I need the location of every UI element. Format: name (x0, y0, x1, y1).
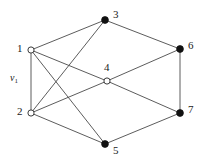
graph-edge-1-3 (31, 20, 105, 50)
vertex-label-5: 5 (113, 145, 119, 156)
graph-node-1 (28, 47, 34, 53)
graph-node-6 (177, 46, 184, 53)
graph-edge-2-4 (31, 81, 107, 113)
graph-canvas (0, 0, 206, 163)
nodes-group (28, 17, 184, 148)
graph-node-4 (104, 78, 110, 84)
vertex-label-2: 2 (17, 106, 23, 117)
graph-node-5 (102, 141, 109, 148)
graph-edge-4-7 (107, 81, 180, 113)
vertex-label-3: 3 (113, 9, 119, 20)
vertex-label-1: 1 (17, 43, 23, 54)
graph-edge-4-6 (107, 49, 180, 81)
graph-edge-5-7 (105, 113, 180, 144)
graph-edge-2-5 (31, 113, 105, 144)
graph-figure: 1234567v1 (0, 0, 206, 163)
graph-node-7 (177, 110, 184, 117)
graph-edge-3-6 (105, 20, 180, 49)
edge-label-v1: v1 (10, 73, 18, 83)
graph-node-2 (28, 110, 34, 116)
vertex-label-7: 7 (188, 104, 194, 115)
vertex-label-6: 6 (188, 40, 194, 51)
graph-node-3 (102, 17, 109, 24)
graph-edge-2-3 (31, 20, 105, 113)
vertex-label-4: 4 (104, 62, 110, 73)
